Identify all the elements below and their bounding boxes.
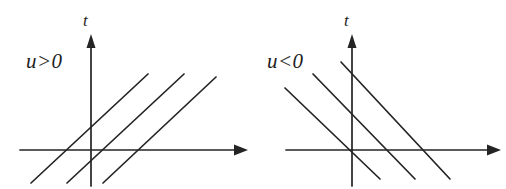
vertical-axis-arrowhead-right — [348, 34, 357, 48]
condition-label-u-positive: u>0 — [26, 49, 62, 73]
panel-right-canvas: t u<0 — [253, 0, 506, 189]
panel-u-negative: t u<0 — [253, 0, 506, 189]
characteristic-line — [285, 88, 380, 179]
horizontal-axis-arrowhead-left — [234, 145, 248, 156]
condition-label-u-negative: u<0 — [267, 49, 303, 73]
figure-root: t u>0 t u<0 — [0, 0, 506, 189]
vertical-axis-arrowhead-left — [87, 34, 96, 48]
vertical-axis-label-left: t — [83, 11, 89, 30]
vertical-axis-label-right: t — [344, 11, 350, 30]
characteristic-line — [103, 77, 216, 183]
characteristic-line — [67, 74, 184, 183]
panel-u-positive: t u>0 — [0, 0, 253, 189]
characteristic-line — [31, 74, 148, 183]
horizontal-axis-arrowhead-right — [487, 145, 501, 156]
panel-left-canvas: t u>0 — [0, 0, 253, 189]
